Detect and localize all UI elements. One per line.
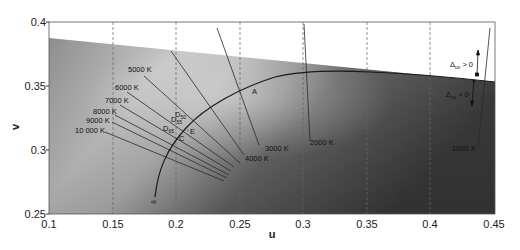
label-10000k: 10 000 K bbox=[75, 126, 105, 135]
illuminant-e-marker bbox=[187, 129, 188, 130]
y-axis: 0.4 0.35 0.3 0.25 v bbox=[9, 16, 49, 220]
label-6000k: 6000 K bbox=[115, 83, 139, 92]
illuminant-e: E bbox=[190, 127, 195, 136]
label-5000k: 5000 K bbox=[128, 65, 152, 74]
label-4000k: 4000 K bbox=[245, 154, 269, 163]
x-tick-label: 0.35 bbox=[356, 218, 377, 230]
cie-uv-chromaticity-chart: 0.4 0.35 0.3 0.25 v 0.1 0.15 0.2 0.25 0.… bbox=[0, 0, 520, 250]
x-tick-label: 0.25 bbox=[229, 218, 250, 230]
duv-negative-label: Δuv < 0 bbox=[446, 90, 469, 100]
label-1000k: 1000 K bbox=[452, 144, 476, 153]
y-axis-label: v bbox=[9, 123, 21, 130]
x-tick-label: 0.3 bbox=[295, 218, 310, 230]
illuminant-c: C bbox=[179, 134, 185, 143]
x-tick-label: 0.15 bbox=[102, 218, 123, 230]
label-8000k: 8000 K bbox=[93, 107, 117, 116]
illuminant-a: A bbox=[252, 87, 257, 96]
duv-positive-label: Δuv > 0 bbox=[450, 60, 473, 70]
x-tick-label: 0.45 bbox=[483, 218, 504, 230]
x-tick-label: 0.2 bbox=[168, 218, 183, 230]
x-axis: 0.1 0.15 0.2 0.25 0.3 0.35 0.4 0.45 u bbox=[41, 218, 504, 240]
label-9000k: 9000 K bbox=[86, 116, 110, 125]
x-tick-label: 0.1 bbox=[41, 218, 56, 230]
label-7000k: 7000 K bbox=[105, 96, 129, 105]
y-tick-label: 0.3 bbox=[31, 144, 46, 156]
x-tick-label: 0.4 bbox=[422, 218, 437, 230]
plot-area bbox=[49, 22, 495, 214]
infinity-label: ∞ bbox=[151, 197, 156, 206]
y-tick-label: 0.4 bbox=[31, 16, 46, 28]
label-3000k: 3000 K bbox=[265, 144, 289, 153]
label-2000k: 2000 K bbox=[310, 138, 334, 147]
x-axis-label: u bbox=[269, 228, 276, 240]
y-tick-label: 0.35 bbox=[25, 80, 46, 92]
